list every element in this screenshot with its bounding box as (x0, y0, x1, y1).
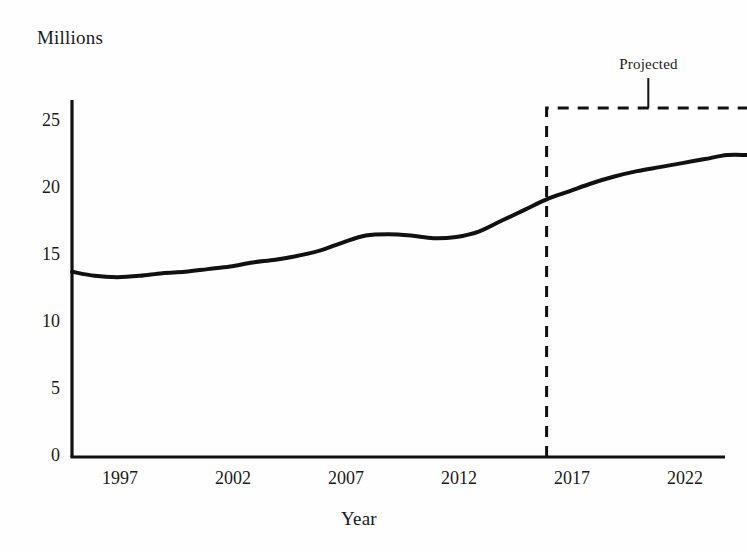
chart-figure: Millions Year Projected 0 5 10 15 20 25 … (0, 0, 747, 552)
projected-dashed-box (547, 108, 747, 457)
chart-canvas (0, 0, 747, 552)
data-series-line (72, 155, 747, 277)
